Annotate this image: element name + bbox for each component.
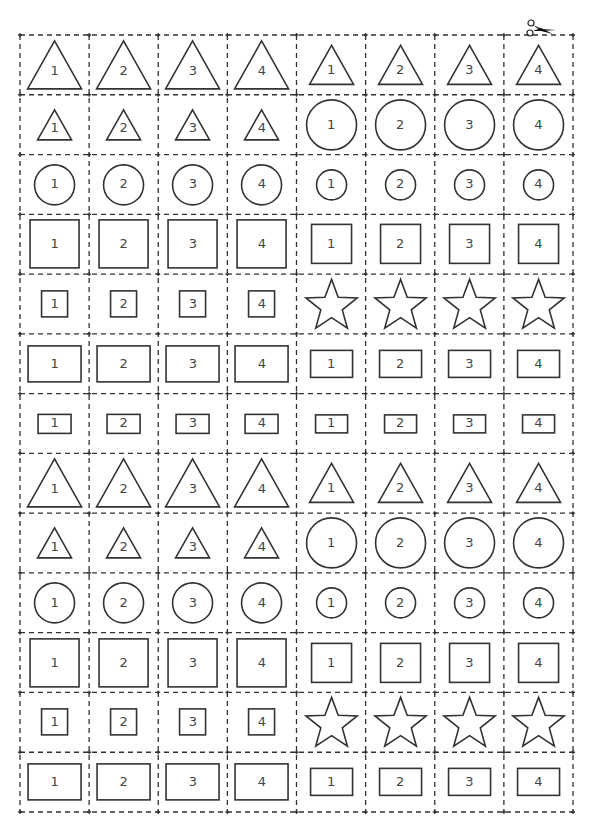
card-number-label: 4 <box>504 596 573 609</box>
card-square-small-2: 2 <box>89 274 158 334</box>
card-rectangle-tiny-3: 3 <box>435 394 504 454</box>
card-number-label: 1 <box>297 596 366 609</box>
card-square-medium-2: 2 <box>366 633 435 693</box>
star-icon <box>366 692 435 752</box>
card-triangle-large-4: 4 <box>227 453 296 513</box>
card-square-small-1: 1 <box>20 692 89 752</box>
card-number-label: 1 <box>297 536 366 549</box>
card-number-label: 2 <box>89 482 158 495</box>
card-number-label: 4 <box>504 481 573 494</box>
card-number-label: 4 <box>227 297 296 310</box>
card-number-label: 1 <box>20 540 89 553</box>
card-number-label: 1 <box>297 63 366 76</box>
card-triangle-large-1: 1 <box>20 453 89 513</box>
card-rectangle-medium-4: 4 <box>504 334 573 394</box>
card-number-label: 1 <box>20 715 89 728</box>
card-number-label: 2 <box>89 596 158 609</box>
card-rectangle-medium-2: 2 <box>366 334 435 394</box>
card-triangle-small-3: 3 <box>158 95 227 155</box>
card-triangle-medium-4: 4 <box>504 35 573 95</box>
card-circle-large-3: 3 <box>435 95 504 155</box>
card-number-label: 2 <box>366 237 435 250</box>
card-star-large <box>297 692 366 752</box>
card-square-medium-3: 3 <box>435 633 504 693</box>
card-circle-small-1: 1 <box>297 155 366 215</box>
card-rectangle-small-2: 2 <box>89 394 158 454</box>
card-circle-small-3: 3 <box>435 155 504 215</box>
card-number-label: 3 <box>158 482 227 495</box>
card-rectangle-small-1: 1 <box>20 394 89 454</box>
card-number-label: 3 <box>435 63 504 76</box>
card-number-label: 3 <box>158 121 227 134</box>
card-circle-large-4: 4 <box>504 513 573 573</box>
card-number-label: 1 <box>20 482 89 495</box>
card-number-label: 3 <box>158 416 227 429</box>
card-number-label: 2 <box>366 656 435 669</box>
card-rectangle-large-1: 1 <box>20 752 89 812</box>
card-square-small-2: 2 <box>89 692 158 752</box>
card-square-small-4: 4 <box>227 274 296 334</box>
card-number-label: 1 <box>297 237 366 250</box>
card-circle-medium-4: 4 <box>227 573 296 633</box>
card-rectangle-tiny-2: 2 <box>366 394 435 454</box>
card-number-label: 1 <box>297 177 366 190</box>
star-icon <box>504 274 573 334</box>
card-number-label: 3 <box>158 357 227 370</box>
card-triangle-large-2: 2 <box>89 35 158 95</box>
card-number-label: 1 <box>297 357 366 370</box>
card-number-label: 2 <box>366 416 435 429</box>
card-number-label: 2 <box>366 596 435 609</box>
card-star-large <box>504 692 573 752</box>
card-square-small-3: 3 <box>158 274 227 334</box>
card-triangle-small-2: 2 <box>89 95 158 155</box>
card-number-label: 4 <box>227 357 296 370</box>
card-number-label: 4 <box>227 715 296 728</box>
card-number-label: 4 <box>504 656 573 669</box>
card-number-label: 1 <box>20 177 89 190</box>
card-number-label: 3 <box>435 237 504 250</box>
card-number-label: 4 <box>227 596 296 609</box>
card-star-large <box>366 274 435 334</box>
card-rectangle-large-4: 4 <box>227 334 296 394</box>
card-number-label: 1 <box>297 416 366 429</box>
card-circle-small-1: 1 <box>297 573 366 633</box>
card-rectangle-medium-4: 4 <box>504 752 573 812</box>
card-number-label: 3 <box>435 177 504 190</box>
card-rectangle-large-3: 3 <box>158 752 227 812</box>
card-circle-large-2: 2 <box>366 95 435 155</box>
card-triangle-medium-4: 4 <box>504 453 573 513</box>
card-rectangle-large-2: 2 <box>89 752 158 812</box>
card-triangle-large-1: 1 <box>20 35 89 95</box>
card-square-large-1: 1 <box>20 633 89 693</box>
card-number-label: 4 <box>504 63 573 76</box>
card-square-small-1: 1 <box>20 274 89 334</box>
card-square-large-1: 1 <box>20 214 89 274</box>
card-number-label: 3 <box>158 715 227 728</box>
card-circle-medium-2: 2 <box>89 573 158 633</box>
card-number-label: 2 <box>366 357 435 370</box>
card-number-label: 4 <box>504 237 573 250</box>
card-number-label: 4 <box>504 536 573 549</box>
card-square-medium-2: 2 <box>366 214 435 274</box>
card-circle-small-4: 4 <box>504 155 573 215</box>
star-icon <box>297 274 366 334</box>
card-number-label: 3 <box>435 357 504 370</box>
card-number-label: 2 <box>89 297 158 310</box>
card-number-label: 2 <box>89 357 158 370</box>
star-icon <box>504 692 573 752</box>
card-number-label: 3 <box>435 656 504 669</box>
card-number-label: 3 <box>158 237 227 250</box>
card-circle-large-3: 3 <box>435 513 504 573</box>
card-rectangle-large-2: 2 <box>89 334 158 394</box>
card-number-label: 2 <box>89 715 158 728</box>
card-rectangle-small-3: 3 <box>158 394 227 454</box>
card-number-label: 4 <box>227 482 296 495</box>
card-circle-medium-3: 3 <box>158 573 227 633</box>
card-number-label: 3 <box>158 656 227 669</box>
card-triangle-large-3: 3 <box>158 35 227 95</box>
card-number-label: 2 <box>366 177 435 190</box>
card-triangle-medium-1: 1 <box>297 453 366 513</box>
card-triangle-small-4: 4 <box>227 513 296 573</box>
card-circle-large-2: 2 <box>366 513 435 573</box>
star-icon <box>435 274 504 334</box>
